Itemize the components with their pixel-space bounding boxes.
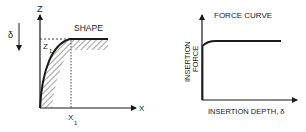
force-x-label: INSERTION DEPTH, δ	[208, 107, 285, 116]
force-curve	[203, 41, 282, 100]
z1-label: Z	[43, 42, 48, 51]
diagram-canvas: δ Z SHAPE Z 1 X X 1 FORCE CURVE INSERTIO…	[0, 0, 306, 132]
force-y-label-line2: FORCE	[191, 46, 200, 72]
delta-label: δ	[8, 30, 13, 40]
shape-title: SHAPE	[74, 23, 103, 33]
z-axis-label: Z	[37, 4, 43, 14]
shape-diagram: δ Z SHAPE Z 1 X X 1	[8, 4, 145, 126]
x1-subscript: 1	[74, 120, 78, 126]
force-curve-title: FORCE CURVE	[214, 11, 272, 20]
force-diagram: FORCE CURVE INSERTION FORCE INSERTION DE…	[183, 11, 297, 116]
x-axis-label: X	[139, 104, 145, 113]
